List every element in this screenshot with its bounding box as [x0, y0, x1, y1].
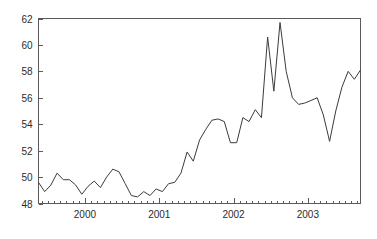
series-path-series-1: [39, 22, 361, 196]
x-tick-label: 2002: [222, 209, 245, 220]
x-tick-label: 2003: [297, 209, 320, 220]
y-tick-label: 52: [21, 146, 33, 157]
axis-frame: [39, 19, 361, 204]
plot-frame: [39, 19, 361, 204]
x-axis-labels: 2000200120022003: [74, 209, 320, 220]
x-tick-label: 2001: [148, 209, 171, 220]
y-tick-label: 60: [21, 40, 33, 51]
y-tick-label: 50: [21, 172, 33, 183]
data-series: [39, 22, 361, 196]
y-tick-label: 54: [21, 119, 33, 130]
x-axis-ticks: [43, 198, 358, 204]
chart-container: 4850525456586062 2000200120022003: [0, 0, 377, 239]
x-tick-label: 2000: [74, 209, 97, 220]
y-tick-label: 56: [21, 93, 33, 104]
y-tick-label: 48: [21, 199, 33, 210]
line-chart: 4850525456586062 2000200120022003: [0, 0, 377, 239]
y-axis-labels: 4850525456586062: [21, 14, 33, 210]
y-tick-label: 58: [21, 66, 33, 77]
y-tick-label: 62: [21, 14, 33, 25]
